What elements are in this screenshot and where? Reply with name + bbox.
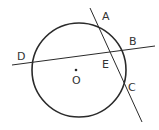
diagram-canvas: A B C D E O	[0, 0, 159, 130]
secant-line-db	[12, 46, 155, 65]
label-a: A	[102, 10, 110, 23]
circle-o	[32, 23, 126, 117]
label-d: D	[17, 50, 25, 63]
label-o: O	[72, 74, 81, 87]
secant-line-ac	[90, 8, 142, 122]
geometry-figure: A B C D E O	[0, 0, 159, 130]
label-b: B	[129, 35, 137, 48]
label-c: C	[128, 81, 136, 94]
center-dot	[75, 69, 78, 72]
label-e: E	[102, 58, 109, 71]
